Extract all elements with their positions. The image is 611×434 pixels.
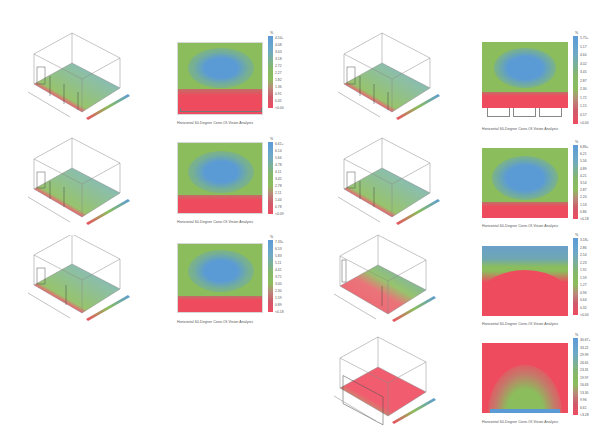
legend-tick: 5.17 (580, 45, 587, 49)
legend-tick: 0.45 (275, 99, 282, 103)
legend-tick: 3.45 (580, 70, 587, 74)
legend-tick: 1.53 (580, 203, 587, 207)
legend-tick: 1.27 (580, 283, 587, 287)
legend-tick: <0.09 (275, 212, 284, 216)
legend-tick: 2.20 (580, 195, 587, 199)
legend-tick: 4.08 (275, 43, 282, 47)
heatmap-panel-1 (177, 42, 263, 115)
color-legend-1: % 4.54+ 4.08 3.63 3.18 2.72 2.27 1.82 1.… (268, 31, 298, 111)
legend-tick: 6.14 (275, 149, 282, 153)
desk-outlines (487, 108, 563, 117)
legend-tick: 1.15 (580, 104, 587, 108)
legend-tick: 1.36 (275, 85, 282, 89)
legend-tick: 30.67+ (580, 338, 590, 342)
color-legend-2: % 6.61+ 6.14 5.66 4.78 4.11 3.45 2.78 2.… (268, 137, 298, 217)
legend-tick: 19.97 (580, 376, 589, 380)
legend-tick: <0.18 (580, 217, 589, 221)
legend-tick: 6.21 (580, 152, 587, 156)
isometric-room-view-2 (0, 135, 160, 245)
heatmap-panel-2 (177, 142, 263, 214)
legend-unit: % (575, 140, 578, 144)
legend-tick: 7.33+ (275, 240, 284, 244)
heatmap-caption-2: Horizontal 60-Degree Cone-Of-Vision Anal… (177, 220, 253, 224)
legend-tick: 3.54 (580, 181, 587, 185)
legend-tick: 4.78 (275, 163, 282, 167)
legend-tick: 16.63 (580, 383, 589, 387)
heatmap-caption-3: Horizontal 60-Degree Cone-Of-Vision Anal… (177, 320, 253, 324)
legend-tick: 1.59 (275, 296, 282, 300)
heatmap-panel-5 (482, 148, 568, 218)
legend-tick: 2.11 (275, 191, 281, 195)
legend-tick: 29.99 (580, 353, 589, 357)
legend-tick: 2.87 (580, 188, 587, 192)
isometric-room-view-3 (0, 235, 160, 335)
legend-tick: 13.30 (580, 391, 589, 395)
legend-tick: 5.11 (275, 261, 281, 265)
legend-tick: 2.72 (275, 64, 282, 68)
legend-tick: 3.63 (275, 50, 282, 54)
legend-tick: 0.57 (580, 113, 587, 117)
legend-tick: 2.87 (580, 79, 587, 83)
legend-unit: % (575, 333, 578, 337)
legend-tick: 0.89 (275, 303, 282, 307)
legend-tick: 2.27 (275, 71, 282, 75)
heatmap-caption-5: Horizontal 60-Degree Cone-Of-Vision Anal… (482, 224, 558, 228)
heatmap-panel-7 (482, 343, 568, 413)
color-legend-5: % 6.86+ 6.21 5.56 4.89 4.21 3.54 2.87 2.… (573, 140, 609, 222)
legend-tick: 26.65 (580, 361, 589, 365)
legend-tick: 1.72 (580, 96, 587, 100)
legend-tick: 5.66 (275, 156, 282, 160)
legend-tick: 4.21 (580, 174, 587, 178)
isometric-room-view-4 (310, 20, 470, 140)
legend-unit: % (575, 233, 578, 237)
legend-tick: 9.96 (580, 398, 587, 402)
legend-tick: <0.00 (580, 313, 589, 317)
legend-tick: 6.53 (275, 247, 282, 251)
isometric-room-view-6 (310, 230, 470, 330)
legend-tick: 0.64 (580, 298, 587, 302)
legend-tick: 4.60 (580, 53, 587, 57)
legend-unit: % (270, 137, 273, 141)
legend-tick: 3.45 (275, 177, 282, 181)
legend-tick: 2.86 (580, 246, 587, 250)
legend-tick: 4.41 (275, 268, 282, 272)
legend-tick: 1.91 (580, 268, 587, 272)
legend-tick: 6.86+ (580, 145, 589, 149)
heatmap-caption-4: Horizontal 60-Degree Cone-Of-Vision Anal… (482, 127, 558, 131)
legend-tick: 3.71 (275, 275, 282, 279)
isometric-room-view-7 (310, 330, 470, 430)
legend-tick: 2.54 (580, 253, 587, 257)
legend-tick: 0.96 (580, 291, 587, 295)
color-legend-3: % 7.33+ 6.53 5.83 5.11 4.41 3.71 3.00 2.… (268, 235, 298, 315)
legend-tick: 5.75+ (580, 36, 589, 40)
legend-tick: 0.32 (580, 306, 587, 310)
legend-tick: 4.89 (580, 167, 587, 171)
legend-tick: 0.86 (580, 210, 587, 214)
legend-tick: 0.91 (275, 92, 282, 96)
legend-tick: 6.61 (580, 406, 587, 410)
legend-tick: 33.22 (580, 346, 589, 350)
legend-unit: % (575, 31, 578, 35)
legend-tick: 1.82 (275, 78, 282, 82)
heatmap-panel-3 (177, 243, 263, 313)
heatmap-caption-1: Horizontal 60-Degree Cone-Of-Vision Anal… (177, 121, 253, 125)
legend-tick: <0.00 (580, 121, 589, 125)
legend-tick: 2.30 (275, 289, 282, 293)
heatmap-caption-6: Horizontal 60-Degree Cone-Of-Vision Anal… (482, 322, 558, 326)
legend-tick: 2.30 (580, 87, 587, 91)
legend-tick: 3.18 (275, 57, 282, 61)
legend-tick: <3.28 (580, 413, 589, 417)
legend-unit: % (270, 31, 273, 35)
legend-tick: 3.18+ (580, 238, 589, 242)
heatmap-panel-4 (482, 42, 568, 108)
legend-tick: 23.31 (580, 368, 589, 372)
legend-tick: 4.11 (275, 170, 281, 174)
color-legend-7: % 30.67+ 33.22 29.99 26.65 23.31 19.97 1… (573, 333, 611, 418)
legend-tick: 0.78 (275, 205, 282, 209)
heatmap-caption-7: Horizontal 60-Degree Cone-Of-Vision Anal… (482, 420, 558, 424)
legend-tick: 4.02 (580, 62, 587, 66)
legend-tick: 1.44 (275, 198, 282, 202)
isometric-room-view-5 (310, 135, 470, 245)
legend-tick: 2.23 (580, 261, 587, 265)
legend-tick: 2.78 (275, 184, 282, 188)
